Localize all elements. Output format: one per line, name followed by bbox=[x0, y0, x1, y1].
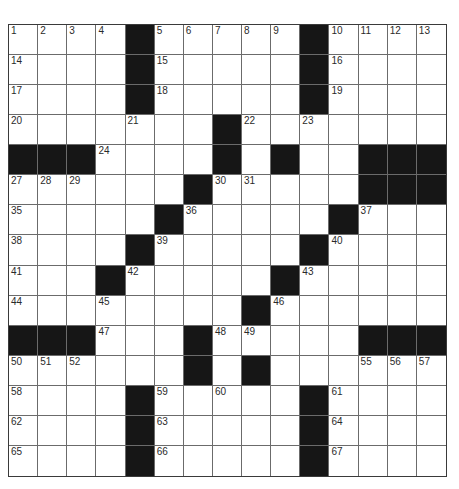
answer-cell[interactable]: 31 bbox=[242, 175, 271, 205]
answer-cell[interactable] bbox=[242, 145, 271, 175]
answer-cell[interactable] bbox=[300, 356, 329, 386]
answer-cell[interactable]: 21 bbox=[126, 115, 155, 145]
answer-cell[interactable]: 55 bbox=[359, 356, 388, 386]
answer-cell[interactable] bbox=[271, 416, 300, 446]
answer-cell[interactable] bbox=[417, 205, 446, 235]
answer-cell[interactable] bbox=[126, 175, 155, 205]
answer-cell[interactable] bbox=[184, 55, 213, 85]
answer-cell[interactable] bbox=[38, 55, 67, 85]
answer-cell[interactable] bbox=[184, 296, 213, 326]
answer-cell[interactable] bbox=[184, 266, 213, 296]
answer-cell[interactable] bbox=[359, 266, 388, 296]
answer-cell[interactable] bbox=[329, 326, 358, 356]
answer-cell[interactable] bbox=[155, 115, 184, 145]
answer-cell[interactable]: 4 bbox=[96, 25, 125, 55]
answer-cell[interactable] bbox=[242, 85, 271, 115]
answer-cell[interactable] bbox=[271, 175, 300, 205]
answer-cell[interactable] bbox=[359, 85, 388, 115]
answer-cell[interactable] bbox=[96, 175, 125, 205]
answer-cell[interactable] bbox=[242, 235, 271, 265]
answer-cell[interactable] bbox=[388, 296, 417, 326]
answer-cell[interactable] bbox=[184, 386, 213, 416]
answer-cell[interactable] bbox=[388, 85, 417, 115]
answer-cell[interactable] bbox=[300, 145, 329, 175]
answer-cell[interactable]: 15 bbox=[155, 55, 184, 85]
answer-cell[interactable] bbox=[67, 446, 96, 476]
answer-cell[interactable]: 37 bbox=[359, 205, 388, 235]
answer-cell[interactable]: 65 bbox=[9, 446, 38, 476]
answer-cell[interactable]: 7 bbox=[213, 25, 242, 55]
answer-cell[interactable] bbox=[271, 115, 300, 145]
answer-cell[interactable] bbox=[417, 446, 446, 476]
answer-cell[interactable] bbox=[126, 205, 155, 235]
answer-cell[interactable]: 28 bbox=[38, 175, 67, 205]
answer-cell[interactable] bbox=[242, 416, 271, 446]
answer-cell[interactable] bbox=[271, 356, 300, 386]
answer-cell[interactable] bbox=[184, 145, 213, 175]
answer-cell[interactable] bbox=[213, 446, 242, 476]
answer-cell[interactable] bbox=[155, 175, 184, 205]
answer-cell[interactable]: 29 bbox=[67, 175, 96, 205]
answer-cell[interactable]: 12 bbox=[388, 25, 417, 55]
answer-cell[interactable] bbox=[155, 326, 184, 356]
answer-cell[interactable]: 27 bbox=[9, 175, 38, 205]
answer-cell[interactable] bbox=[67, 416, 96, 446]
answer-cell[interactable]: 40 bbox=[329, 235, 358, 265]
answer-cell[interactable]: 66 bbox=[155, 446, 184, 476]
answer-cell[interactable] bbox=[388, 416, 417, 446]
answer-cell[interactable] bbox=[271, 326, 300, 356]
answer-cell[interactable] bbox=[359, 55, 388, 85]
answer-cell[interactable] bbox=[67, 296, 96, 326]
answer-cell[interactable] bbox=[359, 416, 388, 446]
answer-cell[interactable] bbox=[271, 55, 300, 85]
answer-cell[interactable]: 64 bbox=[329, 416, 358, 446]
answer-cell[interactable]: 6 bbox=[184, 25, 213, 55]
answer-cell[interactable]: 11 bbox=[359, 25, 388, 55]
answer-cell[interactable]: 47 bbox=[96, 326, 125, 356]
answer-cell[interactable] bbox=[38, 115, 67, 145]
answer-cell[interactable] bbox=[213, 266, 242, 296]
answer-cell[interactable] bbox=[38, 416, 67, 446]
answer-cell[interactable] bbox=[388, 446, 417, 476]
answer-cell[interactable]: 22 bbox=[242, 115, 271, 145]
answer-cell[interactable] bbox=[213, 85, 242, 115]
answer-cell[interactable] bbox=[126, 296, 155, 326]
answer-cell[interactable]: 19 bbox=[329, 85, 358, 115]
answer-cell[interactable] bbox=[388, 55, 417, 85]
answer-cell[interactable] bbox=[67, 55, 96, 85]
answer-cell[interactable] bbox=[417, 266, 446, 296]
answer-cell[interactable]: 60 bbox=[213, 386, 242, 416]
answer-cell[interactable] bbox=[213, 296, 242, 326]
answer-cell[interactable] bbox=[271, 446, 300, 476]
answer-cell[interactable]: 17 bbox=[9, 85, 38, 115]
answer-cell[interactable] bbox=[329, 115, 358, 145]
answer-cell[interactable]: 62 bbox=[9, 416, 38, 446]
answer-cell[interactable] bbox=[417, 115, 446, 145]
answer-cell[interactable] bbox=[38, 386, 67, 416]
answer-cell[interactable] bbox=[388, 115, 417, 145]
answer-cell[interactable] bbox=[213, 205, 242, 235]
answer-cell[interactable]: 48 bbox=[213, 326, 242, 356]
answer-cell[interactable] bbox=[213, 356, 242, 386]
answer-cell[interactable] bbox=[271, 85, 300, 115]
answer-cell[interactable] bbox=[388, 266, 417, 296]
answer-cell[interactable] bbox=[184, 416, 213, 446]
answer-cell[interactable] bbox=[359, 235, 388, 265]
answer-cell[interactable] bbox=[329, 266, 358, 296]
answer-cell[interactable]: 59 bbox=[155, 386, 184, 416]
answer-cell[interactable] bbox=[96, 205, 125, 235]
answer-cell[interactable] bbox=[184, 446, 213, 476]
answer-cell[interactable] bbox=[300, 296, 329, 326]
answer-cell[interactable] bbox=[300, 205, 329, 235]
answer-cell[interactable] bbox=[213, 235, 242, 265]
answer-cell[interactable] bbox=[242, 446, 271, 476]
answer-cell[interactable] bbox=[96, 386, 125, 416]
answer-cell[interactable]: 45 bbox=[96, 296, 125, 326]
answer-cell[interactable] bbox=[155, 145, 184, 175]
answer-cell[interactable]: 39 bbox=[155, 235, 184, 265]
answer-cell[interactable] bbox=[388, 386, 417, 416]
answer-cell[interactable]: 2 bbox=[38, 25, 67, 55]
answer-cell[interactable]: 41 bbox=[9, 266, 38, 296]
answer-cell[interactable] bbox=[329, 145, 358, 175]
answer-cell[interactable]: 1 bbox=[9, 25, 38, 55]
